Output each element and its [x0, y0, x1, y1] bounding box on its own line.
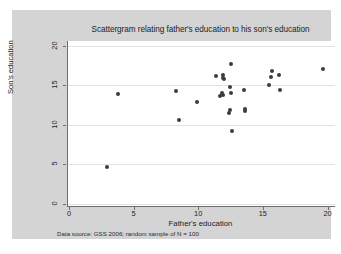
scatter-point: [229, 91, 233, 95]
scatter-point: [321, 67, 325, 71]
y-tick-mark-0: [63, 204, 66, 205]
y-tick-label-15: 15: [50, 78, 59, 92]
stata-graph-canvas: Scattergram relating father's education …: [12, 10, 331, 239]
scatter-point: [270, 69, 274, 73]
scatter-point: [177, 118, 181, 122]
gridline-y-20: [68, 46, 335, 47]
scatter-point: [269, 75, 273, 79]
screenshot-root: Scattergram relating father's education …: [0, 0, 341, 254]
scatter-point: [195, 100, 199, 104]
scatter-point: [228, 85, 232, 89]
y-tick-mark-10: [63, 125, 66, 126]
y-axis-title: Son's education: [6, 40, 15, 94]
gridline-y-15: [68, 85, 335, 86]
scatter-point: [277, 73, 281, 77]
y-tick-mark-20: [63, 46, 66, 47]
y-tick-label-0: 0: [50, 196, 59, 210]
scatter-point: [105, 165, 109, 169]
y-tick-mark-5: [63, 164, 66, 165]
scatter-point: [243, 109, 247, 113]
y-tick-label-5: 5: [50, 157, 59, 171]
x-axis-title: Father's education: [67, 219, 334, 228]
plot-area: [67, 41, 335, 207]
x-tick-label-15: 15: [255, 209, 271, 218]
scatter-point: [230, 129, 234, 133]
chart-title: Scattergram relating father's education …: [67, 25, 334, 34]
chart-note: Data source: GSS 2006; random sample of …: [57, 230, 199, 237]
y-tick-label-20: 20: [50, 38, 59, 52]
plot-inner: [68, 41, 335, 206]
scatter-point: [242, 88, 246, 92]
scatter-point: [267, 83, 271, 87]
x-tick-label-20: 20: [320, 209, 336, 218]
y-tick-label-10: 10: [50, 117, 59, 131]
x-tick-label-10: 10: [190, 209, 206, 218]
scatter-point: [227, 111, 231, 115]
y-tick-mark-15: [63, 85, 66, 86]
x-tick-label-5: 5: [126, 209, 142, 218]
scatter-point: [229, 62, 233, 66]
scatter-point: [218, 94, 222, 98]
scatter-point: [278, 88, 282, 92]
gridline-y-10: [68, 125, 335, 126]
x-tick-label-0: 0: [61, 209, 77, 218]
gridline-y-0: [68, 204, 335, 205]
scatter-point: [116, 92, 120, 96]
scatter-point: [214, 74, 218, 78]
scatter-point: [222, 77, 226, 81]
scatter-point: [174, 89, 178, 93]
